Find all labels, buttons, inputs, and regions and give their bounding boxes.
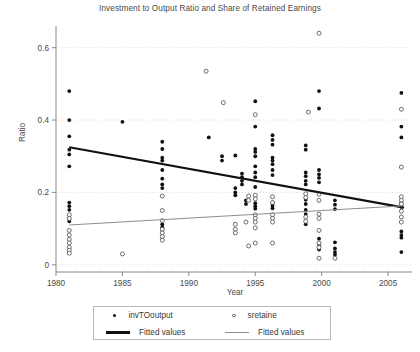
data-point-invTOoutput-8 [67, 208, 71, 212]
data-point-invTOoutput-58 [271, 206, 275, 210]
data-point-invTOoutput-52 [271, 159, 275, 163]
data-point-sretaine-43 [304, 219, 308, 223]
data-point-sretaine-45 [317, 31, 321, 35]
data-point-invTOoutput-33 [240, 183, 244, 187]
data-point-invTOoutput-6 [67, 201, 71, 205]
data-point-invTOoutput-29 [233, 193, 237, 197]
series-sretaine [67, 31, 403, 260]
data-point-sretaine-49 [317, 216, 321, 220]
data-point-invTOoutput-2 [67, 134, 71, 138]
data-point-invTOoutput-53 [271, 162, 275, 166]
data-point-invTOoutput-0 [67, 89, 71, 93]
data-point-sretaine-2 [67, 228, 71, 232]
data-point-invTOoutput-62 [304, 174, 308, 178]
data-point-invTOoutput-59 [304, 143, 308, 147]
data-point-invTOoutput-47 [253, 207, 257, 211]
data-point-invTOoutput-23 [207, 136, 211, 140]
legend-item-fitted-invtooutput: Fitted values [94, 328, 213, 337]
open-circle-icon [232, 314, 236, 318]
data-point-sretaine-11 [160, 209, 164, 213]
data-point-invTOoutput-41 [253, 164, 257, 168]
data-point-invTOoutput-55 [271, 173, 275, 177]
x-tick-label-0: 1980 [47, 279, 66, 288]
legend-label-fitted-invtooutput: Fitted values [139, 328, 185, 337]
data-point-sretaine-54 [333, 256, 337, 260]
scatter-plot-figure: Investment to Output Ratio and Share of … [0, 0, 420, 352]
data-point-invTOoutput-74 [317, 176, 321, 180]
data-point-sretaine-24 [247, 198, 251, 202]
data-point-sretaine-33 [253, 241, 257, 245]
data-point-sretaine-18 [221, 101, 225, 105]
data-point-sretaine-34 [271, 195, 275, 199]
data-point-invTOoutput-24 [220, 154, 224, 158]
x-tick-label-1: 1985 [113, 279, 132, 288]
data-point-sretaine-55 [399, 107, 403, 111]
data-point-invTOoutput-27 [233, 186, 237, 190]
data-point-invTOoutput-76 [317, 237, 321, 241]
chart-title: Investment to Output Ratio and Share of … [0, 4, 420, 13]
data-point-invTOoutput-49 [271, 138, 275, 142]
data-point-invTOoutput-19 [160, 186, 164, 190]
data-point-sretaine-52 [317, 245, 321, 249]
data-point-invTOoutput-79 [333, 198, 337, 202]
y-tick-label-0: 0 [44, 261, 49, 270]
data-point-invTOoutput-7 [67, 204, 71, 208]
data-point-sretaine-8 [67, 251, 71, 255]
data-point-sretaine-19 [233, 222, 237, 226]
data-point-sretaine-23 [247, 194, 251, 198]
data-point-invTOoutput-71 [317, 107, 321, 111]
data-point-invTOoutput-26 [233, 154, 237, 158]
data-point-invTOoutput-82 [333, 240, 337, 244]
data-point-sretaine-53 [317, 256, 321, 260]
legend-item-sretaine: sretaine [213, 311, 332, 320]
data-point-invTOoutput-64 [304, 183, 308, 187]
thick-line-icon [106, 331, 130, 333]
data-point-invTOoutput-94 [399, 250, 403, 254]
data-point-invTOoutput-50 [271, 143, 275, 147]
data-point-invTOoutput-18 [160, 183, 164, 187]
data-point-sretaine-41 [304, 195, 308, 199]
y-tick-label-3: 0.6 [38, 44, 50, 53]
data-point-invTOoutput-86 [399, 91, 403, 95]
data-point-invTOoutput-12 [160, 140, 164, 144]
data-point-sretaine-21 [233, 231, 237, 235]
data-point-invTOoutput-66 [304, 202, 308, 206]
data-point-sretaine-9 [120, 252, 124, 256]
data-point-sretaine-28 [253, 197, 257, 201]
data-point-sretaine-50 [317, 228, 321, 232]
x-tick-label-4: 2000 [313, 279, 332, 288]
data-point-invTOoutput-36 [253, 99, 257, 103]
data-point-sretaine-38 [271, 220, 275, 224]
data-point-invTOoutput-80 [333, 203, 337, 207]
data-point-invTOoutput-16 [160, 168, 164, 172]
data-point-sretaine-35 [271, 201, 275, 205]
data-point-invTOoutput-48 [271, 133, 275, 137]
data-point-sretaine-22 [244, 220, 248, 224]
legend-label-invtooutput: invTOoutput [128, 311, 172, 320]
data-point-invTOoutput-39 [253, 150, 257, 154]
data-point-sretaine-3 [67, 233, 71, 237]
data-point-sretaine-56 [399, 165, 403, 169]
data-point-invTOoutput-13 [160, 147, 164, 151]
data-point-sretaine-31 [253, 220, 257, 224]
data-point-sretaine-61 [399, 215, 403, 219]
data-point-invTOoutput-1 [67, 118, 71, 122]
data-point-invTOoutput-15 [160, 159, 164, 163]
data-point-invTOoutput-63 [304, 179, 308, 183]
data-point-invTOoutput-87 [399, 125, 403, 129]
legend-label-sretaine: sretaine [248, 311, 277, 320]
data-point-sretaine-32 [253, 226, 257, 230]
plot-area: 00.20.40.6198019851990199520002005 [0, 0, 420, 300]
data-point-invTOoutput-25 [220, 159, 224, 163]
x-tick-label-2: 1990 [180, 279, 199, 288]
data-point-invTOoutput-43 [253, 175, 257, 179]
data-point-sretaine-60 [399, 209, 403, 213]
fitted-line-sretaine [69, 206, 404, 225]
data-point-sretaine-39 [271, 241, 275, 245]
data-point-invTOoutput-72 [317, 168, 321, 172]
data-point-sretaine-10 [160, 194, 164, 198]
y-axis-label: Ratio [18, 103, 27, 163]
data-point-invTOoutput-61 [304, 171, 308, 175]
data-point-invTOoutput-83 [333, 247, 337, 251]
data-point-invTOoutput-30 [240, 172, 244, 176]
